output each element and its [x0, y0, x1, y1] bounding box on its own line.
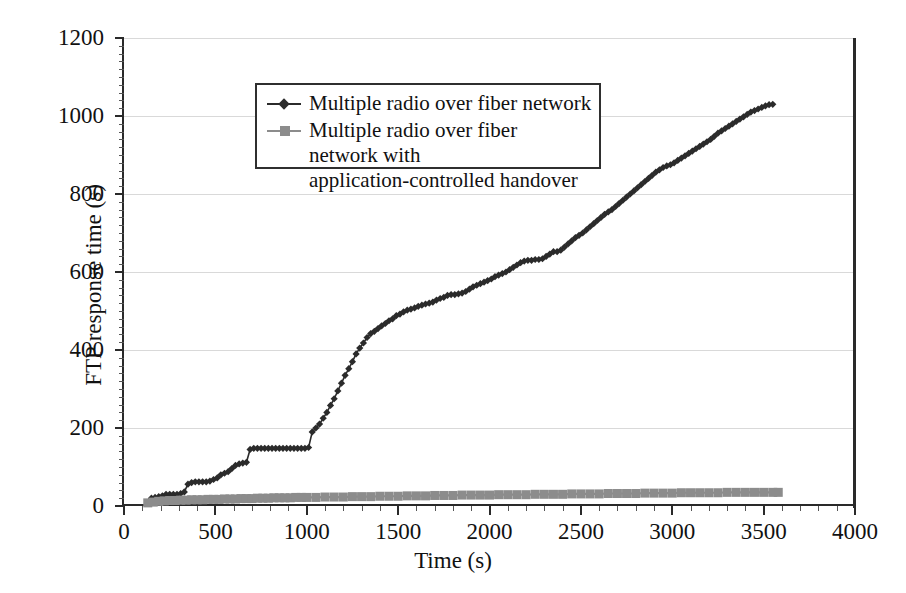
legend-label-series2-line1: Multiple radio over fiber network with	[309, 118, 517, 167]
data-point-marker	[467, 491, 476, 500]
data-point-marker	[659, 489, 668, 498]
data-point-marker	[302, 493, 311, 502]
series-2	[143, 488, 782, 508]
x-tick-label: 4000	[795, 520, 906, 543]
data-point-marker	[327, 402, 334, 409]
chart-figure: FTP response time (s) 020040060080010001…	[0, 0, 906, 593]
data-point-marker	[649, 489, 658, 498]
data-point-marker	[686, 488, 695, 497]
data-point-marker	[567, 489, 576, 498]
data-point-marker	[321, 493, 330, 502]
data-point-marker	[384, 492, 393, 501]
data-point-marker	[512, 490, 521, 499]
data-point-marker	[357, 492, 366, 501]
y-tick-major	[115, 271, 124, 273]
y-tick-major	[115, 427, 124, 429]
legend: Multiple radio over fiber network Multip…	[255, 83, 601, 169]
legend-entry-series2: Multiple radio over fiber network with a…	[265, 118, 591, 193]
y-tick-major	[115, 115, 124, 117]
axis-right-spine	[853, 38, 856, 508]
data-point-marker	[750, 488, 759, 497]
data-point-marker	[366, 492, 375, 501]
data-point-marker	[448, 491, 457, 500]
y-tick-major	[115, 349, 124, 351]
data-point-marker	[640, 489, 649, 498]
data-point-marker	[349, 358, 356, 365]
data-point-marker	[540, 490, 549, 499]
legend-marker-diamond-icon	[265, 91, 305, 117]
data-point-marker	[339, 493, 348, 502]
data-point-marker	[342, 372, 349, 379]
data-point-marker	[345, 365, 352, 372]
y-tick-label: 1000	[0, 104, 104, 127]
data-point-marker	[458, 491, 467, 500]
y-tick-label: 200	[0, 416, 104, 439]
data-point-marker	[549, 490, 558, 499]
data-point-marker	[604, 489, 613, 498]
data-point-marker	[595, 489, 604, 498]
y-tick-label: 600	[0, 260, 104, 283]
data-point-marker	[576, 489, 585, 498]
data-point-marker	[430, 491, 439, 500]
y-tick-label: 1200	[0, 26, 104, 49]
data-point-marker	[394, 492, 403, 501]
data-point-marker	[476, 491, 485, 500]
data-point-marker	[485, 491, 494, 500]
data-point-marker	[723, 488, 732, 497]
data-point-marker	[503, 490, 512, 499]
data-point-marker	[338, 380, 345, 387]
data-point-marker	[403, 491, 412, 500]
plot-area: 020040060080010001200 050010001500200025…	[122, 38, 853, 506]
data-point-marker	[586, 489, 595, 498]
data-point-marker	[531, 490, 540, 499]
legend-entry-series1: Multiple radio over fiber network	[265, 91, 591, 117]
data-point-marker	[375, 492, 384, 501]
data-point-marker	[331, 395, 338, 402]
y-tick-label: 400	[0, 338, 104, 361]
data-point-marker	[334, 387, 341, 394]
y-tick-major	[115, 193, 124, 195]
data-point-marker	[622, 489, 631, 498]
data-point-marker	[320, 415, 327, 422]
data-point-marker	[774, 488, 783, 497]
data-point-marker	[695, 488, 704, 497]
data-point-marker	[421, 491, 430, 500]
data-point-marker	[668, 489, 677, 498]
y-tick-label: 0	[0, 494, 104, 517]
data-point-marker	[677, 488, 686, 497]
data-point-marker	[352, 350, 359, 357]
data-point-marker	[613, 489, 622, 498]
data-point-marker	[558, 490, 567, 499]
data-point-marker	[759, 488, 768, 497]
data-point-marker	[522, 490, 531, 499]
legend-label-series1: Multiple radio over fiber network	[309, 91, 591, 116]
data-point-marker	[311, 493, 320, 502]
data-point-marker	[439, 491, 448, 500]
data-point-marker	[330, 493, 339, 502]
legend-marker-square-icon	[265, 118, 305, 144]
data-point-marker	[494, 490, 503, 499]
legend-label-series2: Multiple radio over fiber network with a…	[309, 118, 591, 193]
legend-label-series2-line2: application-controlled handover	[309, 168, 578, 192]
y-tick-label: 800	[0, 182, 104, 205]
data-point-marker	[412, 491, 421, 500]
data-point-marker	[704, 488, 713, 497]
data-point-marker	[631, 489, 640, 498]
data-point-marker	[732, 488, 741, 497]
data-point-marker	[323, 409, 330, 416]
data-point-marker	[713, 488, 722, 497]
data-point-marker	[741, 488, 750, 497]
y-tick-major	[115, 37, 124, 39]
data-point-marker	[348, 492, 357, 501]
x-axis-title: Time (s)	[0, 548, 906, 574]
